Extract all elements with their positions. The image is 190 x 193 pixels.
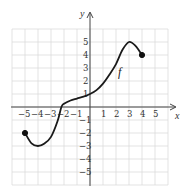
y-tick-label: −4 bbox=[79, 154, 92, 164]
x-tick-label: 4 bbox=[140, 109, 145, 119]
y-axis-label: y bbox=[79, 8, 85, 19]
x-tick-label: 5 bbox=[153, 109, 158, 119]
y-tick-label: −5 bbox=[79, 167, 92, 177]
x-tick-label: −5 bbox=[18, 109, 31, 119]
x-axis-label: x bbox=[174, 110, 180, 121]
x-tick-label: 1 bbox=[101, 109, 106, 119]
x-tick-label: −4 bbox=[31, 109, 44, 119]
y-tick-label: −1 bbox=[79, 115, 92, 125]
axes bbox=[11, 12, 176, 186]
y-tick-label: −2 bbox=[79, 128, 92, 138]
endpoint-dot bbox=[139, 52, 144, 57]
function-graph: −5−4−3−2−11234554321−1−2−3−4−5 y x f bbox=[0, 0, 190, 193]
y-tick-label: 1 bbox=[83, 89, 88, 99]
y-tick-label: 5 bbox=[83, 37, 88, 47]
x-tick-label: −3 bbox=[44, 109, 57, 119]
endpoint-dot bbox=[22, 130, 27, 135]
y-tick-label: −3 bbox=[79, 141, 92, 151]
y-tick-label: 3 bbox=[83, 63, 88, 73]
function-label: f bbox=[118, 65, 123, 79]
y-tick-label: 4 bbox=[83, 50, 88, 60]
x-tick-label: 2 bbox=[114, 109, 119, 119]
x-tick-label: 3 bbox=[127, 109, 132, 119]
y-tick-label: 2 bbox=[83, 76, 88, 86]
